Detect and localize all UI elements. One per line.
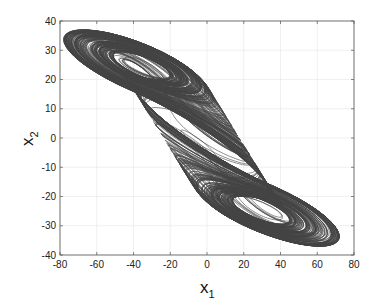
y-tick-label: -10 bbox=[42, 162, 57, 173]
y-tick-label: 0 bbox=[50, 133, 56, 144]
x-tick-label: 0 bbox=[204, 259, 210, 270]
x-tick-label: 80 bbox=[348, 259, 360, 270]
y-tick-label: -20 bbox=[42, 191, 57, 202]
x-tick-label: 40 bbox=[275, 259, 287, 270]
x-tick-label: -40 bbox=[126, 259, 141, 270]
y-tick-label: 20 bbox=[45, 74, 57, 85]
y-axis-label: x2 bbox=[18, 131, 40, 146]
y-tick-label: -30 bbox=[42, 220, 57, 231]
x-axis-label: x1 bbox=[200, 278, 215, 300]
y-tick-labels: -40-30-20-10010203040 bbox=[42, 16, 57, 261]
x-tick-label: 20 bbox=[238, 259, 250, 270]
x-tick-label: 60 bbox=[312, 259, 324, 270]
y-tick-label: -40 bbox=[42, 250, 57, 261]
x-tick-label: -20 bbox=[163, 259, 178, 270]
y-tick-label: 30 bbox=[45, 45, 57, 56]
x-tick-label: -80 bbox=[53, 259, 68, 270]
y-tick-label: 10 bbox=[45, 103, 57, 114]
y-tick-label: 40 bbox=[45, 16, 57, 27]
x-tick-labels: -80-60-40-20020406080 bbox=[53, 259, 360, 270]
phase-portrait-chart: -80-60-40-20020406080 -40-30-20-10010203… bbox=[0, 0, 375, 305]
x-tick-label: -60 bbox=[90, 259, 105, 270]
